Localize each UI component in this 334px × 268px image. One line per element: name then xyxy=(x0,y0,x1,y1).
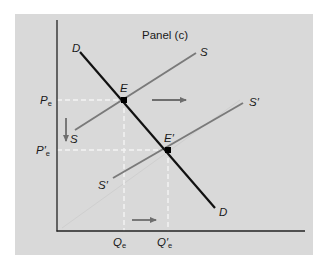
equilibrium-label-e-prime: E′ xyxy=(164,132,175,144)
equilibrium-label-e: E xyxy=(120,82,128,94)
equilibrium-point-e xyxy=(121,97,127,103)
demand-label-bottom: D xyxy=(219,206,227,218)
supply-label-bottom: S xyxy=(70,133,78,145)
supply-demand-diagram: Panel (c) D D S S S′ S′ E E′ Pe P′e Qe Q… xyxy=(0,0,334,268)
supply-shifted-label-top: S′ xyxy=(249,96,260,108)
guide-lines xyxy=(57,100,168,231)
supply-label-top: S xyxy=(200,46,208,58)
price-initial-label: Pe xyxy=(40,94,52,108)
demand-label-top: D xyxy=(72,42,80,54)
quantity-initial-label: Qe xyxy=(113,236,126,250)
price-new-label: P′e xyxy=(36,144,50,158)
panel-title: Panel (c) xyxy=(142,29,188,41)
supply-shifted-label-bottom: S′ xyxy=(98,179,109,191)
supply-curve xyxy=(75,53,196,130)
equilibrium-point-e-prime xyxy=(165,147,171,153)
quantity-new-label: Q′e xyxy=(157,236,172,250)
